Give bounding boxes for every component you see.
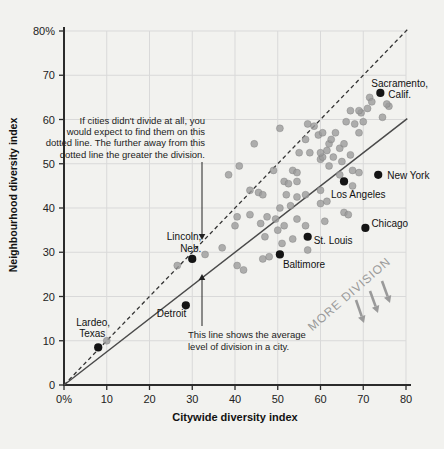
gray-city-dot bbox=[232, 222, 239, 229]
labeled-city-dot bbox=[376, 89, 384, 97]
gray-city-dot bbox=[266, 253, 273, 260]
gray-city-dot bbox=[321, 218, 328, 225]
labeled-city-dot bbox=[94, 343, 102, 351]
gray-city-dot bbox=[272, 216, 279, 223]
gray-city-dot bbox=[285, 180, 292, 187]
solid-line-note-text: This line shows the average bbox=[188, 329, 306, 340]
x-tick-label: 0% bbox=[56, 393, 72, 405]
city-label-text: Lardeo, bbox=[76, 317, 110, 328]
gray-city-dot bbox=[261, 233, 268, 240]
city-label-text: Lincoln, bbox=[167, 231, 201, 242]
gray-city-dot bbox=[317, 200, 324, 207]
x-axis-title: Citywide diversity index bbox=[172, 411, 298, 423]
x-tick-label: 50 bbox=[272, 393, 284, 405]
gray-city-dot bbox=[336, 171, 343, 178]
gray-city-dot bbox=[234, 262, 241, 269]
dotted-line-note-text: dotted line. The further away from this bbox=[46, 137, 206, 148]
city-label-text: St. Louis bbox=[314, 235, 353, 246]
dotted-line-note-text: If cities didn't divide at all, you bbox=[80, 115, 205, 126]
y-tick-label: 20 bbox=[43, 291, 55, 303]
gray-city-dot bbox=[317, 149, 324, 156]
x-tick-label: 40 bbox=[229, 393, 241, 405]
x-tick-label: 70 bbox=[357, 393, 369, 405]
y-tick-label: 40 bbox=[43, 202, 55, 214]
more-division-arrow-shaft bbox=[370, 291, 376, 306]
x-tick-label: 10 bbox=[101, 393, 113, 405]
gray-city-dot bbox=[343, 118, 350, 125]
gray-city-dot bbox=[351, 120, 358, 127]
gray-city-dot bbox=[276, 125, 283, 132]
gray-city-dot bbox=[355, 169, 362, 176]
gray-city-dot bbox=[332, 129, 339, 136]
gray-city-dot bbox=[368, 98, 375, 105]
y-tick-label: 70 bbox=[43, 69, 55, 81]
city-label-text: Neb. bbox=[180, 243, 201, 254]
diversity-scatter-chart: 0%102030405060708001020304050607080% Sac… bbox=[0, 0, 444, 449]
gray-city-dot bbox=[349, 167, 356, 174]
gray-city-dot bbox=[240, 266, 247, 273]
x-tick-label: 20 bbox=[143, 393, 155, 405]
gray-city-dot bbox=[257, 220, 264, 227]
gray-city-dot bbox=[293, 169, 300, 176]
gray-city-dot bbox=[276, 205, 283, 212]
labeled-city-dot bbox=[361, 224, 369, 232]
gray-city-dot bbox=[225, 171, 232, 178]
gray-city-dot bbox=[283, 191, 290, 198]
gray-city-dot bbox=[349, 182, 356, 189]
gray-city-dot bbox=[234, 213, 241, 220]
y-tick-label: 80% bbox=[33, 25, 55, 37]
gray-city-dot bbox=[259, 255, 266, 262]
gray-city-dot bbox=[338, 158, 345, 165]
gray-city-dot bbox=[246, 211, 253, 218]
gray-city-dot bbox=[281, 222, 288, 229]
city-label-text: Detroit bbox=[157, 308, 187, 319]
gray-city-dot bbox=[236, 162, 243, 169]
gray-city-dot bbox=[251, 140, 258, 147]
gray-city-dot bbox=[355, 129, 362, 136]
y-tick-label: 0 bbox=[49, 379, 55, 391]
gray-city-dot bbox=[330, 154, 337, 161]
gray-city-dot bbox=[317, 187, 324, 194]
labeled-city-dot bbox=[188, 255, 196, 263]
city-label-text: Baltimore bbox=[283, 259, 326, 270]
y-tick-label: 10 bbox=[43, 335, 55, 347]
gray-city-dot bbox=[293, 193, 300, 200]
more-division-arrow-shaft bbox=[356, 300, 362, 316]
gray-city-dot bbox=[174, 262, 181, 269]
gray-city-dot bbox=[302, 191, 309, 198]
city-label-text: Texas bbox=[79, 328, 105, 339]
gray-city-dot bbox=[345, 211, 352, 218]
gray-city-dot bbox=[360, 118, 367, 125]
gray-city-dot bbox=[304, 247, 311, 254]
city-label-text: Sacramento, bbox=[371, 78, 428, 89]
labeled-city-dot bbox=[304, 233, 312, 241]
gray-city-dot bbox=[289, 235, 296, 242]
gray-city-dot bbox=[364, 105, 371, 112]
gray-city-dot bbox=[274, 227, 281, 234]
gray-city-dot bbox=[306, 149, 313, 156]
gray-city-dot bbox=[323, 198, 330, 205]
solid-line-note-text: level of division in a city. bbox=[188, 341, 289, 352]
dotted-line-note-text: would expect to find them on this bbox=[66, 126, 206, 137]
more-division-arrow-shaft bbox=[382, 281, 388, 296]
gray-city-dot bbox=[302, 136, 309, 143]
gray-city-dot bbox=[355, 107, 362, 114]
gray-city-dot bbox=[319, 129, 326, 136]
gray-city-dot bbox=[311, 123, 318, 130]
gray-city-dot bbox=[328, 136, 335, 143]
gray-city-dot bbox=[202, 251, 209, 258]
gray-city-dot bbox=[264, 213, 271, 220]
gray-city-dot bbox=[246, 187, 253, 194]
gray-city-dot bbox=[326, 162, 333, 169]
gray-city-dot bbox=[323, 147, 330, 154]
gray-city-dot bbox=[279, 240, 286, 247]
gray-city-dot bbox=[302, 222, 309, 229]
labeled-city-dot bbox=[276, 250, 284, 258]
gray-city-dot bbox=[259, 191, 266, 198]
diversity-scatter-figure: 0%102030405060708001020304050607080% Sac… bbox=[0, 0, 444, 449]
gray-city-dot bbox=[347, 107, 354, 114]
x-tick-label: 80 bbox=[400, 393, 412, 405]
gray-city-dot bbox=[270, 167, 277, 174]
gray-city-dot bbox=[379, 114, 386, 121]
gray-city-dot bbox=[347, 151, 354, 158]
